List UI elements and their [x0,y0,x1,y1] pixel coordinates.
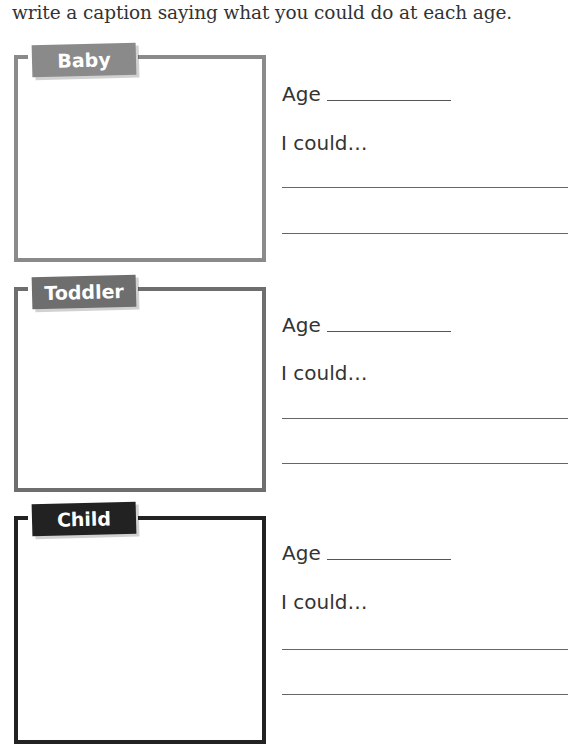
child-caption-line-1[interactable] [282,649,568,650]
toddler-caption-line-1[interactable] [282,418,568,419]
toddler-could-label: I could… [281,361,367,385]
baby-age-input[interactable] [327,99,451,101]
child-caption-line-2[interactable] [282,694,568,695]
child-label: Child [57,507,112,530]
toddler-label: Toddler [44,280,124,304]
baby-age-label: Age [282,82,321,106]
toddler-age-row: Age [282,313,451,337]
child-age-label: Age [282,541,321,565]
child-could-label: I could… [281,590,367,614]
baby-age-row: Age [282,82,451,106]
toddler-photo-frame[interactable] [14,287,266,492]
baby-label: Baby [57,48,111,71]
baby-label-tab: Baby [32,43,137,78]
baby-caption-line-2[interactable] [282,233,568,234]
baby-could-label: I could… [281,131,367,155]
child-age-input[interactable] [327,558,451,560]
toddler-age-input[interactable] [327,330,451,332]
baby-photo-frame[interactable] [14,55,266,262]
instruction-text: write a caption saying what you could do… [12,2,512,23]
toddler-label-tab: Toddler [32,275,137,310]
toddler-age-label: Age [282,313,321,337]
child-label-tab: Child [32,502,137,537]
toddler-caption-line-2[interactable] [282,463,568,464]
child-age-row: Age [282,541,451,565]
child-photo-frame[interactable] [14,516,266,744]
baby-caption-line-1[interactable] [282,187,568,188]
